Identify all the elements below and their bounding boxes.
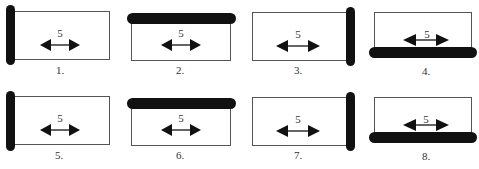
double-arrow-icon (403, 119, 449, 131)
thick-bar-top (127, 13, 236, 24)
double-arrow-icon (276, 125, 320, 137)
panel-label: 3. (294, 65, 302, 76)
arrow-label: 5 (57, 28, 63, 39)
thick-bar-bottom (369, 132, 477, 143)
panel-label: 1. (56, 65, 64, 76)
panel-label: 6. (176, 150, 184, 161)
panel-label: 8. (422, 151, 430, 162)
thick-bar-right (346, 92, 355, 151)
arrow-label: 5 (295, 114, 301, 125)
arrow-label: 5 (178, 113, 184, 124)
panel-label: 7. (294, 150, 302, 161)
double-arrow-icon (161, 124, 201, 136)
diagram-canvas: 5 1. 5 2. 5 3. 5 4. (0, 0, 479, 169)
thick-bar-right (346, 7, 355, 66)
thick-bar-bottom (369, 47, 477, 58)
arrow-label: 5 (57, 113, 63, 124)
thick-bar-left (6, 5, 15, 65)
panel-label: 4. (422, 66, 430, 77)
thick-bar-top (127, 98, 236, 109)
double-arrow-icon (403, 34, 449, 46)
panel-label: 5. (55, 150, 63, 161)
thick-bar-left (6, 91, 15, 151)
panel-label: 2. (176, 65, 184, 76)
double-arrow-icon (40, 124, 80, 136)
double-arrow-icon (276, 40, 320, 52)
double-arrow-icon (161, 39, 201, 51)
arrow-label: 5 (295, 29, 301, 40)
arrow-label: 5 (178, 28, 184, 39)
rectangle (374, 12, 472, 52)
double-arrow-icon (40, 39, 80, 51)
